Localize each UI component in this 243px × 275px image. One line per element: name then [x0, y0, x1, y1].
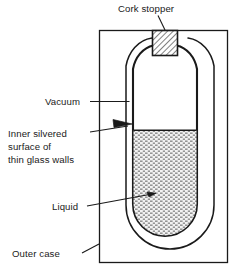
liquid [130, 129, 200, 239]
cork-stopper-leader [158, 16, 165, 31]
outer-case-leader [82, 244, 99, 253]
label-cork-stopper: Cork stopper [118, 3, 175, 14]
label-liquid: Liquid [52, 201, 78, 212]
label-inner-silvered-line1: Inner silvered [8, 128, 67, 139]
vacuum-flask-diagram: Cork stopper Vacuum Inner silvered surfa… [0, 0, 243, 275]
label-inner-silvered-line3: thin glass walls [8, 154, 74, 165]
diagram-canvas: Cork stopper Vacuum Inner silvered surfa… [0, 0, 243, 275]
label-inner-silvered-line2: surface of [8, 141, 51, 152]
label-outer-case: Outer case [12, 248, 60, 259]
cork-stopper [153, 31, 178, 56]
label-vacuum: Vacuum [45, 96, 80, 107]
